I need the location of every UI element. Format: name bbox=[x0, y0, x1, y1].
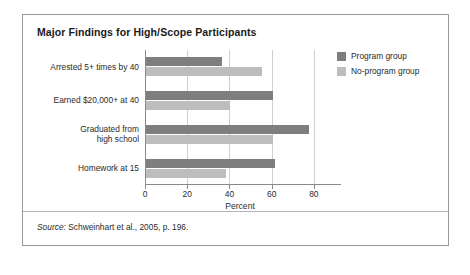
figure-title: Major Findings for High/Scope Participan… bbox=[37, 26, 256, 38]
y-axis-line bbox=[145, 50, 146, 185]
legend-item: Program group bbox=[337, 51, 419, 61]
x-axis-ticks: 020406080 bbox=[145, 185, 335, 201]
bar-group bbox=[146, 91, 335, 110]
category-label-line: Homework at 15 bbox=[27, 163, 139, 174]
category-label-line: Graduated from bbox=[27, 124, 139, 135]
bar bbox=[146, 169, 226, 178]
x-tick-label-20: 20 bbox=[183, 189, 192, 199]
source-label: Source: bbox=[37, 222, 66, 232]
plot-area bbox=[145, 50, 335, 185]
category-label: Arrested 5+ times by 40 bbox=[27, 62, 139, 73]
category-label-line: Earned $20,000+ at 40 bbox=[27, 95, 139, 106]
bar bbox=[146, 101, 230, 110]
bar bbox=[146, 125, 309, 134]
x-tick-label-0: 0 bbox=[143, 189, 148, 199]
bar bbox=[146, 159, 275, 168]
x-tick-label-60: 60 bbox=[267, 189, 276, 199]
source-citation: Schweinhart et al., 2005, p. 196. bbox=[66, 222, 188, 232]
bar-group bbox=[146, 125, 335, 144]
category-label: Homework at 15 bbox=[27, 163, 139, 174]
bar-group bbox=[146, 57, 335, 76]
footer-divider bbox=[23, 211, 448, 212]
legend-item-label: No-program group bbox=[351, 66, 419, 76]
legend-item: No-program group bbox=[337, 66, 419, 76]
screenshot-root: Major Findings for High/Scope Participan… bbox=[0, 0, 470, 275]
category-label-line: high school bbox=[27, 134, 139, 145]
plot-inner bbox=[145, 50, 335, 185]
legend-swatch-no-program bbox=[337, 67, 346, 76]
bar bbox=[146, 91, 273, 100]
x-axis-title: Percent bbox=[145, 201, 335, 211]
source-note: Source: Schweinhart et al., 2005, p. 196… bbox=[37, 222, 188, 232]
legend-swatch-program bbox=[337, 52, 346, 61]
x-tick-label-80: 80 bbox=[309, 189, 318, 199]
legend-item-label: Program group bbox=[351, 51, 407, 61]
figure-container: Major Findings for High/Scope Participan… bbox=[22, 14, 449, 246]
bar bbox=[146, 67, 262, 76]
category-label: Earned $20,000+ at 40 bbox=[27, 95, 139, 106]
x-tick-label-40: 40 bbox=[225, 189, 234, 199]
bar bbox=[146, 135, 273, 144]
chart-legend: Program groupNo-program group bbox=[337, 51, 419, 81]
category-axis-labels: Arrested 5+ times by 40Earned $20,000+ a… bbox=[23, 50, 139, 185]
bar bbox=[146, 57, 222, 66]
bar-group bbox=[146, 159, 335, 178]
category-label: Graduated fromhigh school bbox=[27, 124, 139, 145]
category-label-line: Arrested 5+ times by 40 bbox=[27, 62, 139, 73]
